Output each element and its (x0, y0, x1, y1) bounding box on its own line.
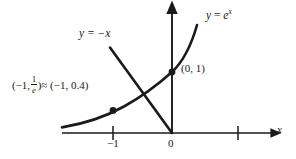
point-label-origin-one: (0, 1) (181, 63, 205, 74)
curve-equation-exponent: x (228, 7, 231, 16)
curve-equation-equals: = (211, 9, 223, 21)
tick-label-zero: 0 (168, 138, 174, 149)
point-marker-inverse-e (110, 107, 117, 114)
axis-label-x: x (277, 124, 282, 135)
line-negative-x (110, 48, 172, 134)
point-label-open-paren: (−1, (12, 80, 30, 91)
fraction-numerator: 1 (31, 75, 38, 84)
point-label-inverse-e: (−1, 1 e ) ≈ (−1, 0.4) (12, 75, 88, 95)
point-marker-origin-one (169, 69, 176, 76)
figure-container: y = ex y = −x (0, 1) (−1, 1 e ) ≈ (−1, 0… (0, 0, 296, 159)
tick-label-neg-one: −1 (107, 138, 119, 149)
fraction-one-over-e: 1 e (31, 75, 38, 95)
line-equation-label: y = −x (79, 28, 110, 40)
point-label-approximation: ≈ (−1, 0.4) (41, 80, 88, 91)
fraction-denominator: e (31, 86, 37, 95)
curve-equation-label: y = ex (206, 8, 232, 21)
